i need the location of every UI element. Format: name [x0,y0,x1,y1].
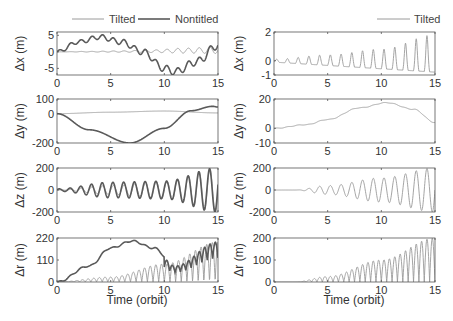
series-tilted [274,102,435,128]
x-tick-label: 5 [108,145,114,157]
y-tick-label: 200 [36,162,54,174]
y-tick-label: -1 [261,69,271,81]
y-tick-label: 220 [36,232,54,244]
series-tilted [57,242,218,282]
y-tick-label: -200 [32,206,54,218]
x-tick-label: 15 [429,284,441,296]
x-axis-label-left: Time (orbit) [107,293,168,307]
y-tick-label: 20 [259,93,271,105]
y-tick-label: 100 [36,93,54,105]
y-axis-label: Δz (m) [13,172,27,207]
y-tick-label: 100 [253,254,271,266]
y-tick-label: 200 [253,232,271,244]
y-tick-label: 0 [48,108,54,120]
y-tick-label: 0 [265,55,271,67]
subplot-right-4: 2001000051015Δr (m) [232,232,441,296]
x-tick-label: 0 [271,284,277,296]
legend-nontilted-label: Nontitled [175,13,218,25]
y-axis-label: Δr (m) [13,243,27,276]
x-tick-label: 0 [54,145,60,157]
series-tilted [274,238,435,282]
x-tick-label: 5 [108,77,114,89]
legend-tilted-label: Tilted [109,13,136,25]
x-tick-label: 0 [54,284,60,296]
x-tick-label: 15 [212,214,224,226]
y-tick-label: 2 [265,26,271,38]
subplot-left-3: 2000-200051015Δz (m) [13,162,224,226]
series-nontitled [57,169,218,212]
x-tick-label: 15 [429,145,441,157]
x-axis-label-right: Time (orbit) [324,293,385,307]
y-axis-label: Δx (m) [232,36,246,71]
x-tick-label: 10 [375,214,387,226]
x-tick-label: 0 [271,145,277,157]
axes-box [274,99,435,143]
series-tilted [274,36,435,72]
y-tick-label: 0 [48,184,54,196]
x-tick-label: 10 [375,77,387,89]
x-tick-label: 0 [54,77,60,89]
x-tick-label: 5 [325,145,331,157]
y-tick-label: -200 [249,206,271,218]
subplot-grid: 50-5051015Δx (m)1000-200051015Δy (m)2000… [13,26,441,296]
axes-box [274,238,435,282]
y-tick-label: -200 [32,137,54,149]
y-tick-label: -5 [44,62,54,74]
series-tilted [57,111,218,114]
x-tick-label: 15 [429,77,441,89]
x-tick-label: 15 [212,145,224,157]
subplot-right-3: 2000-200051015Δz (m) [232,162,441,226]
axes-box [274,32,435,75]
x-tick-label: 5 [325,214,331,226]
legend-tilted-label-right: Tilted [414,13,441,25]
left-legend: Tilted Nontitled [72,13,218,25]
x-tick-label: 10 [158,214,170,226]
y-axis-label: Δr (m) [232,243,246,276]
x-tick-label: 0 [271,214,277,226]
y-tick-label: 0 [265,122,271,134]
subplot-right-2: 200-10051015Δy (m) [232,93,441,157]
y-axis-label: Δy (m) [13,103,27,138]
x-tick-label: 10 [375,145,387,157]
y-tick-label: 110 [36,254,54,266]
x-tick-label: 0 [271,77,277,89]
x-tick-label: 5 [108,214,114,226]
x-tick-label: 10 [158,77,170,89]
right-legend: Tilted [377,13,441,25]
x-tick-label: 10 [158,145,170,157]
subplot-left-4: 2201100051015Δr (m) [13,232,224,296]
y-tick-label: 200 [253,162,271,174]
y-axis-label: Δz (m) [232,172,246,207]
x-tick-label: 15 [429,214,441,226]
x-tick-label: 5 [325,77,331,89]
y-tick-label: -10 [255,137,271,149]
subplot-right-1: 20-1051015Δx (m) [232,26,441,89]
y-tick-label: 0 [265,184,271,196]
x-tick-label: 15 [212,284,224,296]
y-tick-label: 5 [48,29,54,41]
x-tick-label: 15 [212,77,224,89]
x-tick-label: 0 [54,214,60,226]
y-tick-label: 0 [48,46,54,58]
y-axis-label: Δx (m) [13,36,27,71]
series-tilted [274,169,435,212]
figure-canvas: Tilted Nontitled Tilted 50-5051015Δx (m)… [0,0,453,321]
series-nontitled [57,35,218,75]
y-axis-label: Δy (m) [232,103,246,138]
axes-box [57,99,218,143]
subplot-left-1: 50-5051015Δx (m) [13,29,224,89]
subplot-left-2: 1000-200051015Δy (m) [13,93,224,157]
